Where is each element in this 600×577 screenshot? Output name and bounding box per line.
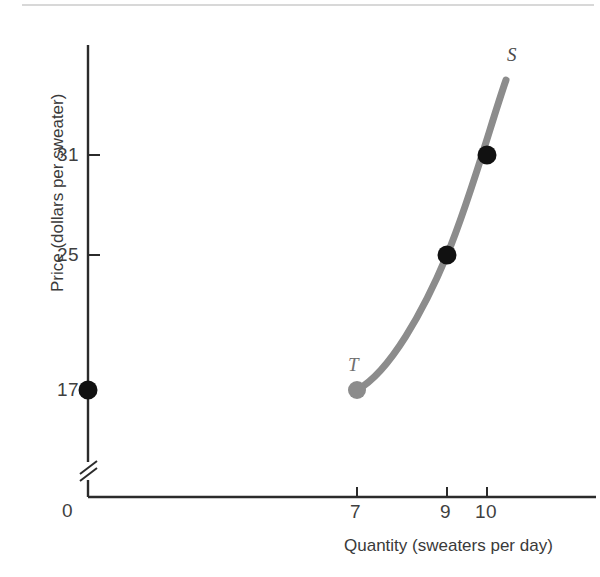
data-point-T [348,381,366,399]
data-point-10-31 [478,146,497,165]
axis-break-mark-lower [80,468,97,481]
axis-break-mark-upper [80,461,97,474]
curve-label-t: T [348,354,359,376]
supply-curve-path [357,80,506,390]
x-axis-title: Quantity (sweaters per day) [344,536,553,556]
data-point-9-25 [438,246,457,265]
chart-plot-area [0,0,600,577]
curve-label-s: S [507,44,517,66]
data-point-axis-17 [79,381,98,400]
x-tick-label-9: 9 [440,501,451,523]
x-tick-label-7: 7 [350,501,361,523]
y-axis-title: Price (dollars per sweater) [48,94,68,292]
origin-label: 0 [62,500,73,522]
x-tick-label-10: 10 [475,501,497,523]
y-tick-label-17: 17 [57,379,79,401]
supply-curve-figure: 31 25 17 0 7 9 10 Price (dollars per swe… [0,0,600,577]
